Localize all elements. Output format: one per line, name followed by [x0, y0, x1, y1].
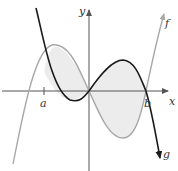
curve-f-label: f — [164, 17, 171, 30]
x-axis-label: x — [169, 95, 176, 108]
shaded-region-left — [44, 47, 89, 100]
point-a-label: a — [40, 97, 47, 110]
point-b-label: b — [144, 97, 151, 110]
curve-g-label: g — [163, 148, 170, 161]
graph: y x a b f g — [0, 0, 178, 171]
y-axis-label: y — [78, 5, 86, 18]
